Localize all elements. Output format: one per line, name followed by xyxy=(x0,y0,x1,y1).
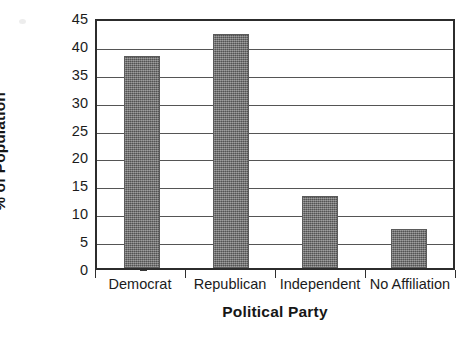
x-axis-category-label: No Affiliation xyxy=(365,276,455,292)
bar-chart-figure: % of Population 454035302520151050 Democ… xyxy=(0,0,473,343)
bar-republican[interactable] xyxy=(213,34,249,268)
y-axis-tick-label: 10 xyxy=(72,207,88,222)
bar-slot xyxy=(364,21,453,268)
bar-independent[interactable] xyxy=(302,196,338,269)
y-axis-tick-label: 30 xyxy=(72,95,88,110)
plot-area xyxy=(95,19,455,270)
y-axis-tick-label: 5 xyxy=(80,235,88,250)
y-axis-tick-label: 35 xyxy=(72,68,88,83)
y-axis-tick-label: 45 xyxy=(72,12,88,27)
x-axis-category-label: Democrat xyxy=(95,276,185,292)
bars-layer xyxy=(97,21,453,268)
y-axis-tick-label: 40 xyxy=(72,40,88,55)
bar-slot xyxy=(275,21,364,268)
bar-no-affiliation[interactable] xyxy=(391,229,427,268)
y-axis-title: % of Population xyxy=(0,0,20,323)
bar-slot xyxy=(186,21,275,268)
y-axis-tick-label: 20 xyxy=(72,151,88,166)
x-axis-tick-mark xyxy=(455,270,456,278)
x-axis-title: Political Party xyxy=(95,303,455,321)
bar-slot xyxy=(97,21,186,268)
y-axis-tick-label: 15 xyxy=(72,179,88,194)
y-axis-tick-label: 25 xyxy=(72,123,88,138)
bar-democrat[interactable] xyxy=(124,56,160,268)
x-axis-category-label: Republican xyxy=(185,276,275,292)
scan-artifact-speckle xyxy=(19,19,26,24)
y-axis-tick-labels: 454035302520151050 xyxy=(52,19,88,270)
x-axis-tick-labels: DemocratRepublicanIndependentNo Affiliat… xyxy=(95,276,455,292)
x-axis-category-label: Independent xyxy=(275,276,365,292)
y-axis-tick-label: 0 xyxy=(80,263,88,278)
